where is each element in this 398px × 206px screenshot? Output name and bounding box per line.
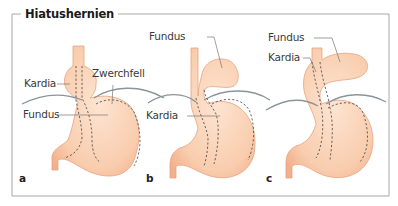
label-kardia-b: Kardia bbox=[146, 109, 178, 121]
label-zwerchfell-a: Zwerchfell bbox=[92, 67, 145, 79]
panel-letter-b: b bbox=[146, 172, 154, 184]
panel-letter-a: a bbox=[19, 172, 26, 184]
label-fundus-a: Fundus bbox=[23, 108, 59, 120]
hiatal-hernia-figure: Hiatushernien Kardia Zwerchfell Fundus a… bbox=[0, 0, 398, 206]
figure-title: Hiatushernien bbox=[21, 7, 118, 21]
label-fundus-b: Fundus bbox=[149, 30, 185, 42]
label-kardia-a: Kardia bbox=[24, 77, 56, 89]
panel-b-drawing bbox=[148, 37, 270, 178]
label-fundus-c: Fundus bbox=[268, 31, 304, 43]
label-kardia-c: Kardia bbox=[268, 51, 300, 63]
panel-letter-c: c bbox=[266, 172, 272, 184]
figure-canvas bbox=[0, 0, 398, 206]
